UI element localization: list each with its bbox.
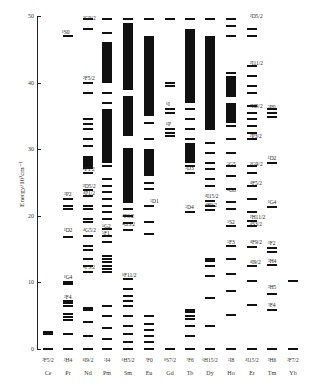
term-label-tm-3P0: ³P0: [268, 104, 275, 110]
energy-level-ho: [226, 35, 236, 37]
energy-level-pm: [102, 178, 112, 180]
energy-level-tm: [267, 251, 277, 253]
y-axis-line: [37, 16, 38, 350]
energy-level-nd: [83, 128, 93, 130]
ground-term-pm: ⁵I4: [96, 357, 118, 363]
energy-level-nd: [83, 221, 93, 223]
ion-label-tm: Tm: [261, 370, 283, 376]
energy-level-tb: [185, 18, 195, 20]
term-label-sm-4F: ⁴F3/2: [122, 213, 134, 219]
energy-level-tb: [185, 172, 195, 174]
energy-level-dy: [205, 152, 215, 154]
term-label-pr-1S0: ¹S0: [62, 29, 69, 35]
level-band-ho: [226, 76, 236, 96]
energy-level-nd: [83, 235, 93, 237]
ground-term-tb: ⁷F6: [179, 357, 201, 363]
term-label-er-4F9: ⁴F9/2: [250, 239, 262, 245]
energy-level-er: [247, 75, 257, 77]
energy-level-tm: [267, 264, 277, 266]
energy-level-eu: [144, 18, 154, 20]
energy-level-eu: [144, 182, 154, 184]
energy-level-tm: [267, 309, 277, 311]
ion-label-tb: Tb: [179, 370, 201, 376]
energy-level-sm: [123, 208, 133, 210]
ground-term-ho: ⁵I8: [220, 357, 242, 363]
energy-level-tb: [185, 108, 195, 110]
term-label-er-2I: ²I11/2: [250, 60, 263, 66]
energy-level-tm: [267, 348, 277, 350]
energy-level-pr: [63, 236, 73, 238]
level-band-sm: [123, 149, 133, 202]
energy-level-tb: [185, 311, 195, 313]
energy-level-er: [247, 112, 257, 114]
energy-level-dy: [205, 142, 215, 144]
term-label-tb-5D3: ⁵D3: [185, 165, 194, 171]
energy-level-er: [247, 172, 257, 174]
ground-term-gd: ⁸S7/2: [159, 357, 181, 363]
y-tick: [37, 149, 41, 150]
energy-level-eu: [144, 329, 154, 331]
term-label-nd-2G: ²G9/2: [83, 15, 96, 21]
energy-level-ce: [43, 331, 53, 333]
term-label-ho-5S2: ⁵S2: [227, 219, 235, 225]
energy-level-tb: [185, 318, 195, 320]
ground-term-yb: ²F7/2: [282, 357, 304, 363]
energy-level-sm: [123, 295, 133, 297]
ion-label-ho: Ho: [220, 370, 242, 376]
energy-level-ho: [226, 290, 236, 292]
energy-level-sm: [123, 341, 133, 343]
energy-level-tb: [185, 348, 195, 350]
energy-level-dy: [205, 265, 215, 267]
energy-level-tb: [185, 309, 195, 311]
energy-level-gd: [165, 82, 175, 84]
energy-level-nd: [83, 271, 93, 273]
y-tick-label: 30: [4, 146, 34, 152]
term-label-sm-4G: ⁴G5/2: [122, 221, 135, 227]
energy-level-nd: [83, 307, 93, 309]
energy-level-gd: [165, 128, 175, 130]
energy-level-tb: [185, 128, 195, 130]
ion-label-yb: Yb: [282, 370, 304, 376]
level-band-tb: [185, 56, 195, 103]
energy-level-pm: [102, 261, 112, 263]
energy-level-ho: [226, 152, 236, 154]
energy-level-ho: [226, 258, 236, 260]
level-band-dy: [205, 69, 215, 129]
energy-level-ho: [226, 208, 236, 210]
energy-level-tm: [267, 206, 277, 208]
term-label-pr-1D2: ¹D2: [64, 227, 72, 233]
energy-level-dy: [205, 18, 215, 20]
energy-level-pm: [102, 205, 112, 207]
energy-level-pm: [102, 165, 112, 167]
energy-level-tb: [185, 118, 195, 120]
term-label-nd-2D: ²D5/2: [83, 183, 96, 189]
energy-level-tb: [185, 315, 195, 317]
ground-term-eu: ⁷F0: [138, 357, 160, 363]
term-label-tb-5D4: ⁵D4: [185, 204, 194, 210]
level-band-tb: [185, 29, 195, 56]
term-label-nd-2P: ²P1/2: [83, 166, 95, 172]
term-label-ho-5F3: ⁵F3: [227, 239, 235, 245]
energy-level-nd: [83, 309, 93, 311]
level-band-dy: [205, 36, 215, 69]
term-label-pm-5G: ⁵G2: [102, 223, 111, 229]
y-tick: [37, 282, 41, 283]
energy-level-gd: [165, 18, 175, 20]
energy-level-ho: [226, 18, 236, 20]
energy-level-eu: [144, 122, 154, 124]
energy-level-pr: [63, 316, 73, 318]
energy-level-sm: [123, 333, 133, 335]
energy-level-pr: [63, 198, 73, 200]
term-label-er-4F5: ⁴F5/2: [250, 180, 262, 186]
energy-level-gd: [165, 135, 175, 137]
energy-level-pm: [102, 338, 112, 340]
energy-level-ho: [226, 125, 236, 127]
energy-level-pm: [102, 268, 112, 270]
energy-level-sm: [123, 18, 133, 20]
energy-level-er: [247, 35, 257, 37]
y-tick: [37, 16, 41, 17]
term-label-dy-4I: ⁴I15/2: [205, 193, 219, 199]
energy-level-dy: [205, 178, 215, 180]
energy-level-nd: [83, 245, 93, 247]
ground-term-er: ⁴I15/2: [241, 357, 263, 363]
